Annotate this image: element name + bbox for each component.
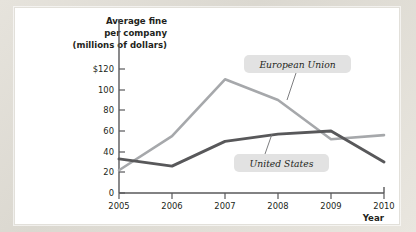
x-tick-label: 2007 bbox=[214, 201, 235, 211]
line-chart: Average fine per company (millions of do… bbox=[15, 8, 399, 224]
x-tick-label: 2008 bbox=[267, 201, 288, 211]
callout-leader-european-union bbox=[287, 73, 296, 100]
x-tick-label: 2006 bbox=[161, 201, 182, 211]
callout-european-union: European Union bbox=[244, 55, 351, 73]
y-tick-label: 80 bbox=[103, 105, 114, 115]
y-tick-label: 60 bbox=[103, 126, 114, 136]
y-axis-title-line2: per company bbox=[104, 28, 167, 38]
callout-label-united-states: United States bbox=[250, 158, 314, 169]
y-tick-label: 100 bbox=[98, 85, 114, 95]
y-tick-label: $120 bbox=[93, 64, 114, 74]
y-axis-title-line3: (millions of dollars) bbox=[73, 40, 168, 50]
y-tick-label: 40 bbox=[103, 147, 114, 157]
page-background: Average fine per company (millions of do… bbox=[0, 0, 416, 232]
x-tick-labels: 2005 2006 2007 2008 2009 2010 bbox=[108, 201, 394, 211]
x-ticks bbox=[119, 193, 384, 199]
y-tick-label: 20 bbox=[103, 167, 114, 177]
y-tick-labels: 0 20 40 60 80 100 $120 bbox=[93, 64, 114, 198]
x-axis-title: Year bbox=[362, 213, 385, 223]
chart-panel: Average fine per company (millions of do… bbox=[14, 7, 400, 225]
y-axis-title-line1: Average fine bbox=[106, 16, 167, 26]
x-tick-label: 2010 bbox=[373, 201, 394, 211]
callout-united-states: United States bbox=[234, 154, 329, 172]
chart-svg: Average fine per company (millions of do… bbox=[15, 8, 399, 224]
callout-label-european-union: European Union bbox=[258, 59, 335, 70]
x-tick-label: 2005 bbox=[108, 201, 129, 211]
y-tick-label: 0 bbox=[109, 188, 114, 198]
x-tick-label: 2009 bbox=[320, 201, 341, 211]
y-ticks bbox=[119, 69, 125, 193]
